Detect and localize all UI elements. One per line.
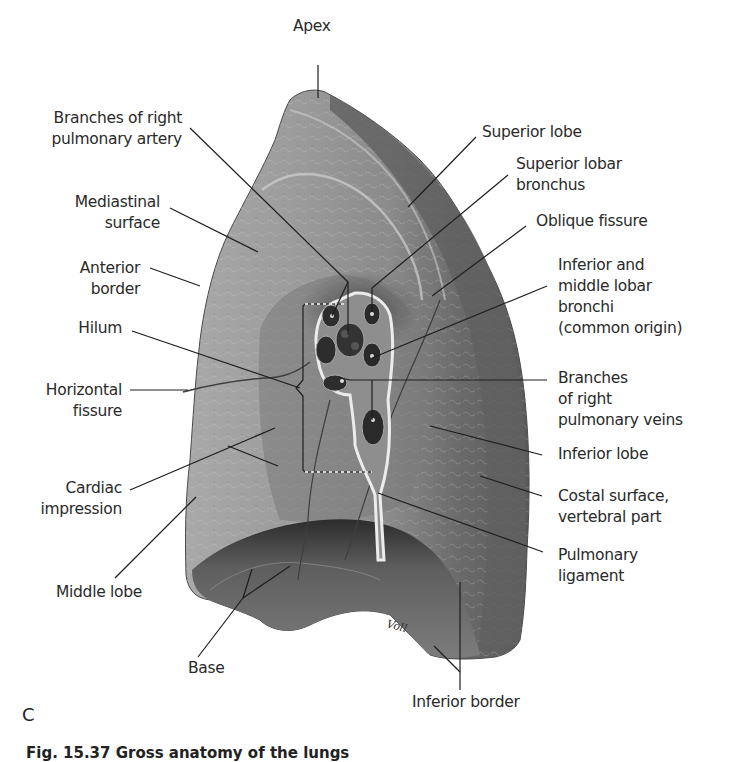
label-inferior-middle-lobar-bronchi: Inferior and middle lobar bronchi (commo… bbox=[558, 255, 682, 339]
label-costal-surface-vertebral-part: Costal surface, vertebral part bbox=[558, 486, 669, 528]
label-branches-right-pulmonary-veins: Branches of right pulmonary veins bbox=[558, 368, 683, 431]
figure-caption: Fig. 15.37 Gross anatomy of the lungs bbox=[26, 744, 349, 762]
label-superior-lobe: Superior lobe bbox=[482, 122, 582, 143]
label-apex: Apex bbox=[293, 16, 331, 37]
label-inferior-border: Inferior border bbox=[412, 692, 520, 713]
label-mediastinal-surface: Mediastinal surface bbox=[60, 192, 160, 234]
label-middle-lobe: Middle lobe bbox=[56, 582, 142, 603]
panel-letter: C bbox=[22, 704, 35, 725]
label-superior-lobar-bronchus: Superior lobar bronchus bbox=[516, 154, 622, 196]
label-cardiac-impression: Cardiac impression bbox=[20, 478, 122, 520]
label-pulmonary-ligament: Pulmonary ligament bbox=[558, 545, 638, 587]
label-inferior-lobe: Inferior lobe bbox=[558, 444, 648, 465]
label-hilum: Hilum bbox=[60, 318, 122, 339]
label-oblique-fissure: Oblique fissure bbox=[536, 211, 648, 232]
label-base: Base bbox=[188, 658, 225, 679]
label-anterior-border: Anterior border bbox=[60, 258, 140, 300]
label-horizontal-fissure: Horizontal fissure bbox=[20, 380, 122, 422]
label-branches-right-pulmonary-artery: Branches of right pulmonary artery bbox=[38, 108, 182, 150]
